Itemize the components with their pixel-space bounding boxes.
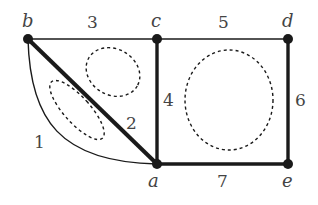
vertex-c [152, 34, 162, 44]
edge-label-4: 4 [163, 90, 174, 110]
edge-label-3: 3 [87, 12, 98, 32]
vertex-a [152, 159, 162, 169]
face-loop-c-d-e-a [185, 50, 273, 150]
vertex-label-a: a [148, 170, 159, 191]
edge-label-5: 5 [218, 12, 229, 32]
edge-label-1: 1 [34, 132, 45, 152]
edge-label-6: 6 [295, 90, 306, 110]
vertex-b [23, 34, 33, 44]
vertex-d [283, 34, 293, 44]
vertex-e [283, 159, 293, 169]
vertex-label-d: d [282, 10, 294, 31]
vertex-label-e: e [282, 170, 293, 191]
vertex-label-c: c [151, 10, 161, 31]
edge-label-2: 2 [126, 113, 137, 133]
edge-2 [28, 39, 157, 164]
graph-diagram: b c d a e 1 2 3 4 5 6 7 [0, 0, 318, 205]
vertex-label-b: b [22, 10, 34, 31]
edge-label-7: 7 [217, 171, 228, 191]
